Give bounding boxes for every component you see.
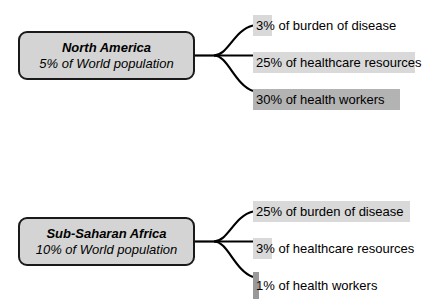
stat-label-na-workers: 30% of health workers — [253, 92, 385, 107]
stat-label-ssa-workers: 1% of health workers — [253, 278, 377, 293]
connector-lines-sub-saharan-africa — [190, 186, 260, 305]
stat-row-ssa-workers: 1% of health workers — [253, 275, 377, 296]
stat-row-na-workers: 30% of health workers — [253, 89, 385, 110]
stat-label-na-resources: 25% of healthcare resources — [253, 55, 421, 70]
region-name: North America — [62, 40, 151, 55]
stat-label-ssa-burden: 25% of burden of disease — [253, 204, 403, 219]
region-box-north-america[interactable]: North America 5% of World population — [18, 31, 195, 80]
region-name: Sub-Saharan Africa — [46, 226, 166, 241]
stat-label-ssa-resources: 3% of healthcare resources — [253, 241, 414, 256]
stat-row-ssa-burden: 25% of burden of disease — [253, 201, 403, 222]
stat-row-na-burden: 3% of burden of disease — [253, 15, 396, 36]
connector-lines-north-america — [190, 0, 260, 120]
region-population-share: 10% of World population — [36, 242, 178, 257]
stat-row-na-resources: 25% of healthcare resources — [253, 52, 421, 73]
stat-row-ssa-resources: 3% of healthcare resources — [253, 238, 414, 259]
region-population-share: 5% of World population — [39, 56, 173, 71]
diagram-canvas: North America 5% of World population 3% … — [0, 0, 444, 305]
stat-label-na-burden: 3% of burden of disease — [253, 18, 396, 33]
region-box-sub-saharan-africa[interactable]: Sub-Saharan Africa 10% of World populati… — [18, 217, 195, 266]
